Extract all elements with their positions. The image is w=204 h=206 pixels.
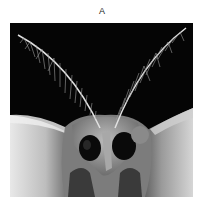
moth-photo (10, 23, 193, 197)
panel-label: A (0, 6, 204, 16)
moth-illustration (10, 23, 193, 197)
